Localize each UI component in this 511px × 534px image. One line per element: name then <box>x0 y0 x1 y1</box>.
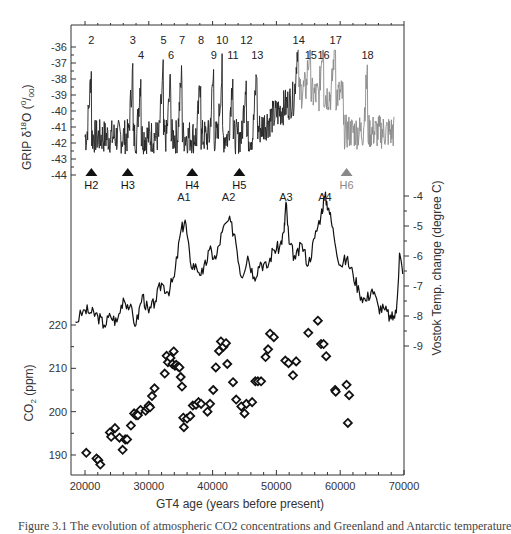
co2-data-point <box>289 371 297 379</box>
heinrich-triangle-icon <box>233 168 245 176</box>
grip-axis-title: GRIP δ18O (0/00) <box>19 85 36 170</box>
co2-data-point <box>127 422 135 430</box>
co2-scatter-series <box>82 317 353 469</box>
grip-y-axis: -36-37-38-39-40-41-42-43-44 <box>51 41 76 181</box>
antarctic-event-label: A3 <box>279 191 292 203</box>
co2-data-point <box>232 396 240 404</box>
vostok-axis-title: Vostok Temp. change (degree C) <box>430 180 444 355</box>
grip-tick-label: -40 <box>51 105 67 117</box>
grip-tick-label: -39 <box>51 89 67 101</box>
figure-caption: Figure 3.1 The evolution of atmospheric … <box>18 519 511 534</box>
do-event-label: 6 <box>168 49 174 61</box>
co2-data-point <box>161 370 169 378</box>
co2-data-point <box>82 449 90 457</box>
do-event-label: 12 <box>240 34 252 46</box>
heinrich-triangle-icon <box>186 168 198 176</box>
vostok-line <box>75 192 402 328</box>
heinrich-label: H6 <box>340 179 354 191</box>
grip-tick-label: -44 <box>51 169 67 181</box>
grip-line-black <box>85 50 299 154</box>
do-event-label: 5 <box>160 34 166 46</box>
co2-data-point <box>119 446 127 454</box>
x-axis-title: GT4 age (years before present) <box>156 497 324 511</box>
antarctic-event-labels: A1A2A3A4 <box>177 191 331 203</box>
do-event-label: 13 <box>251 49 263 61</box>
co2-data-point <box>304 329 312 337</box>
do-event-label: 2 <box>88 34 94 46</box>
do-event-label: 3 <box>130 34 136 46</box>
co2-data-point <box>180 423 188 431</box>
co2-data-point <box>177 373 185 381</box>
do-event-label: 14 <box>293 34 305 46</box>
do-event-label: 17 <box>330 34 342 46</box>
do-event-label: 11 <box>227 49 238 61</box>
heinrich-triangle-icon <box>85 168 97 176</box>
heinrich-event-markers: H2H3H4H5H6 <box>84 168 353 191</box>
vostok-tick-label: -7 <box>413 280 423 292</box>
grip-tick-label: -41 <box>51 121 67 133</box>
grip-tick-label: -43 <box>51 153 67 165</box>
x-tick-label: 70000 <box>389 480 420 492</box>
co2-y-axis: 220210200190 <box>49 319 76 461</box>
co2-data-point <box>209 386 217 394</box>
co2-data-point <box>343 381 351 389</box>
x-tick-label: 40000 <box>197 480 228 492</box>
dansgaard-oeschger-labels: 23456789101112131415161718 <box>88 34 373 61</box>
x-tick-label: 30000 <box>134 480 165 492</box>
vostok-tick-label: -8 <box>413 310 423 322</box>
x-tick-label: 50000 <box>261 480 292 492</box>
co2-axis-title: CO2 (ppm) <box>22 364 38 421</box>
x-tick-label: 20000 <box>70 480 101 492</box>
co2-data-point <box>223 360 231 368</box>
vostok-tick-label: -4 <box>413 190 423 202</box>
do-event-label: 15 <box>305 49 317 61</box>
co2-data-point <box>212 363 220 371</box>
co2-data-point <box>178 383 186 391</box>
grip-tick-label: -38 <box>51 73 67 85</box>
co2-data-point <box>292 357 300 365</box>
co2-data-point <box>344 419 352 427</box>
top-axis-ticks <box>85 21 404 25</box>
co2-tick-label: 220 <box>49 319 67 331</box>
grip-d18o-series <box>85 50 394 154</box>
co2-tick-label: 200 <box>49 406 67 418</box>
grip-line-grey <box>299 50 395 149</box>
heinrich-triangle-icon <box>122 168 134 176</box>
antarctic-event-label: A1 <box>177 191 190 203</box>
heinrich-triangle-icon <box>341 168 353 176</box>
do-event-label: 10 <box>216 34 228 46</box>
co2-data-point <box>229 378 237 386</box>
co2-data-point <box>345 391 353 399</box>
vostok-tick-label: -5 <box>413 220 423 232</box>
heinrich-label: H4 <box>185 179 199 191</box>
do-event-label: 16 <box>317 49 329 61</box>
vostok-y-axis: -4-5-6-7-8-9 <box>404 190 423 352</box>
x-tick-label: 60000 <box>325 480 356 492</box>
do-event-label: 18 <box>362 49 374 61</box>
co2-data-point <box>314 317 322 325</box>
antarctic-event-label: A2 <box>222 191 235 203</box>
heinrich-label: H3 <box>121 179 135 191</box>
vostok-temperature-series <box>75 192 402 328</box>
do-event-label: 8 <box>198 34 204 46</box>
vostok-tick-label: -9 <box>413 340 423 352</box>
heinrich-label: H2 <box>84 179 98 191</box>
do-event-label: 7 <box>179 34 185 46</box>
do-event-label: 9 <box>211 49 217 61</box>
grip-tick-label: -42 <box>51 137 67 149</box>
co2-data-point <box>322 352 330 360</box>
heinrich-label: H5 <box>232 179 246 191</box>
do-event-label: 4 <box>138 49 144 61</box>
co2-tick-label: 210 <box>49 362 67 374</box>
x-axis-ticks: 200003000040000500006000070000 <box>70 470 420 492</box>
grip-tick-label: -37 <box>51 57 67 69</box>
co2-tick-label: 190 <box>49 449 67 461</box>
vostok-tick-label: -6 <box>413 250 423 262</box>
grip-tick-label: -36 <box>51 41 67 53</box>
